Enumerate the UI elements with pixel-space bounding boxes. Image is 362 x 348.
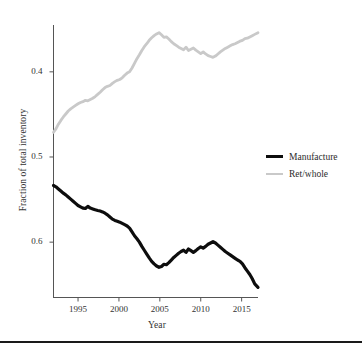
- x-tick-label: 1995: [61, 304, 95, 314]
- series-line-ret-whole: [54, 33, 259, 133]
- x-tick-marks: [78, 298, 242, 302]
- chart-figure: 0.60.50.4 19952000200520102015 Fraction …: [0, 0, 362, 348]
- y-axis-title: Fraction of total inventory: [18, 90, 28, 230]
- y-tick-marks: [50, 72, 54, 242]
- x-tick-label: 2010: [184, 304, 218, 314]
- x-tick-label: 2015: [225, 304, 259, 314]
- y-tick-label: 0.6: [21, 236, 43, 246]
- chart-legend: Manufacture Ret/whole: [266, 148, 362, 182]
- series-line-manufacture: [54, 186, 259, 288]
- x-axis-title: Year: [92, 320, 222, 330]
- legend-label-manufacture: Manufacture: [289, 152, 338, 162]
- legend-line-icon-manufacture: [266, 155, 283, 158]
- legend-line-icon-retwhole: [266, 173, 283, 175]
- x-tick-label: 2005: [143, 304, 177, 314]
- axis-lines: [50, 25, 259, 302]
- legend-label-retwhole: Ret/whole: [289, 169, 328, 179]
- legend-item-retwhole[interactable]: Ret/whole: [266, 165, 362, 182]
- data-series-group: [54, 33, 259, 288]
- x-tick-label: 2000: [102, 304, 136, 314]
- legend-item-manufacture[interactable]: Manufacture: [266, 148, 362, 165]
- bottom-rule: [0, 341, 362, 343]
- y-tick-label: 0.4: [21, 66, 43, 76]
